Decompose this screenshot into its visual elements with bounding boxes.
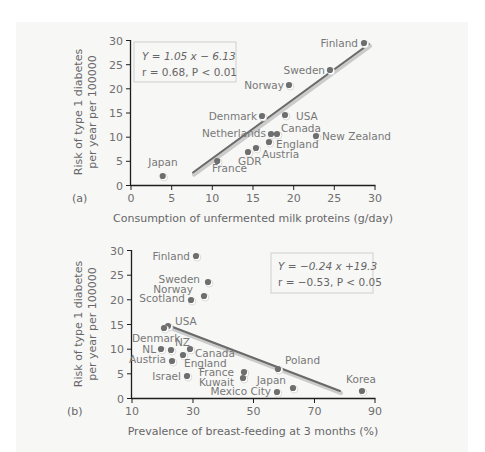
svg-text:25: 25 [110,269,124,282]
svg-text:Norway: Norway [244,79,284,91]
svg-text:30: 30 [186,405,200,418]
svg-text:Denmark: Denmark [209,110,258,122]
svg-text:90: 90 [368,405,382,418]
svg-text:Sweden: Sweden [284,64,326,76]
svg-text:Netherlands: Netherlands [202,127,266,139]
svg-text:20: 20 [287,192,301,205]
svg-text:Finland: Finland [152,250,190,262]
chart-b-y-ticks: 0 5 10 15 20 25 30 [110,245,131,406]
svg-text:England: England [276,138,319,150]
svg-text:Scotland: Scotland [139,292,185,304]
chart-a-panel-label: (a) [72,192,87,205]
svg-text:Y = 1.05 x − 6.13: Y = 1.05 x − 6.13 [142,50,236,62]
svg-text:Canada: Canada [281,122,321,134]
chart-a-equation-box: Y = 1.05 x − 6.13 r = 0.68, P < 0.01 [134,42,237,82]
svg-text:Japan: Japan [256,374,286,386]
svg-text:Risk of type 1 diabetes: Risk of type 1 diabetes [72,261,85,388]
chart-b-equation-box: Y = −0.24 x +19.3 r = −0.53, P < 0.05 [271,253,382,293]
svg-text:Denmark: Denmark [132,332,181,344]
svg-text:15: 15 [109,107,123,120]
svg-text:USA: USA [175,315,198,327]
svg-text:5: 5 [117,368,124,381]
svg-text:70: 70 [308,405,322,418]
svg-text:0: 0 [128,192,135,205]
svg-text:15: 15 [246,192,260,205]
svg-text:Risk of type 1 diabetes: Risk of type 1 diabetes [72,49,85,176]
chart-b: Risk of type 1 diabetes per year per 100… [67,245,382,439]
svg-text:50: 50 [247,405,261,418]
figure: Risk of type 1 diabetes per year per 100… [0,0,485,452]
svg-text:30: 30 [110,245,124,258]
chart-b-panel-label: (b) [67,405,83,418]
svg-text:r = −0.53, P < 0.05: r = −0.53, P < 0.05 [278,276,382,288]
svg-text:30: 30 [368,192,382,205]
svg-text:Finland: Finland [320,37,358,49]
svg-text:20: 20 [109,83,123,96]
chart-a: Risk of type 1 diabetes per year per 100… [72,35,393,226]
chart-a-y-ticks: 0 5 10 15 20 25 30 [109,35,130,193]
svg-text:per year per 100000: per year per 100000 [86,267,99,381]
svg-text:per year per 100000: per year per 100000 [86,55,99,169]
svg-text:10: 10 [109,131,123,144]
svg-text:Korea: Korea [346,373,376,385]
svg-text:10: 10 [205,192,219,205]
svg-text:10: 10 [110,343,124,356]
svg-text:USA: USA [296,110,319,122]
svg-text:25: 25 [327,192,341,205]
svg-text:Y = −0.24 x +19.3: Y = −0.24 x +19.3 [278,260,377,272]
chart-a-x-ticks: 0 5 10 15 20 25 30 [128,186,383,206]
chart-b-x-ticks: 10 30 50 70 90 [125,399,382,419]
chart-b-x-axis-label: Prevalence of breast-feeding at 3 months… [128,425,379,438]
svg-text:5: 5 [168,192,175,205]
svg-text:10: 10 [125,405,139,418]
svg-text:New Zealand: New Zealand [322,130,391,142]
chart-a-y-axis-label: Risk of type 1 diabetes per year per 100… [72,49,99,176]
chart-a-x-axis-label: Consumption of unfermented milk proteins… [113,212,393,225]
chart-b-y-axis-label: Risk of type 1 diabetes per year per 100… [72,261,99,388]
svg-text:NZ: NZ [175,336,190,348]
svg-text:15: 15 [110,319,124,332]
svg-text:Japan: Japan [147,156,177,168]
svg-text:25: 25 [109,59,123,72]
svg-text:Israel: Israel [152,370,181,382]
svg-text:Austria: Austria [129,353,166,365]
svg-text:0: 0 [116,180,123,193]
svg-text:r = 0.68, P < 0.01: r = 0.68, P < 0.01 [142,66,237,78]
svg-text:Poland: Poland [285,354,320,366]
svg-text:0: 0 [117,393,124,406]
svg-text:Mexico City: Mexico City [210,385,271,397]
svg-text:5: 5 [116,155,123,168]
svg-text:GDR: GDR [238,155,262,167]
svg-text:30: 30 [109,35,123,48]
svg-text:20: 20 [110,294,124,307]
